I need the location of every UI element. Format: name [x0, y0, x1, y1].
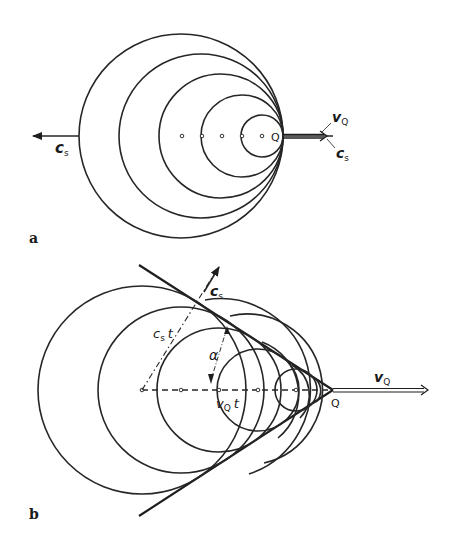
- panel-a: cs Q vQ cs a: [29, 34, 349, 246]
- emission-point: [294, 388, 298, 392]
- label-source-q-a: Q: [271, 131, 280, 144]
- arrowhead-open: [421, 385, 428, 395]
- leader-line-vq: [321, 123, 331, 133]
- emission-point: [260, 134, 264, 138]
- label-source-q-b: Q: [331, 397, 340, 410]
- label-vq-a: vQ: [332, 109, 348, 127]
- emission-points-a: [180, 134, 264, 138]
- emission-point: [240, 134, 244, 138]
- doppler-mach-figure: cs Q vQ cs a: [0, 0, 458, 539]
- panel-letter-a: a: [29, 230, 38, 246]
- emission-point: [217, 388, 221, 392]
- label-vq-t: vQt: [216, 396, 240, 413]
- panel-b: cs cst α vQt Q vQ b: [29, 265, 428, 522]
- emission-point: [180, 134, 184, 138]
- label-cs-right: cs: [336, 145, 349, 163]
- emission-point: [220, 134, 224, 138]
- leader-line-cs: [327, 139, 335, 148]
- label-alpha: α: [209, 347, 219, 363]
- label-cs-left: cs: [55, 139, 69, 158]
- emission-point: [256, 388, 260, 392]
- emission-point: [179, 388, 183, 392]
- label-cs-t: cst: [153, 326, 174, 343]
- label-cs-b: cs: [210, 283, 223, 301]
- label-vq-b: vQ: [374, 369, 390, 387]
- angle-arrowhead: [208, 374, 214, 384]
- emission-point: [200, 134, 204, 138]
- panel-letter-b: b: [29, 506, 39, 522]
